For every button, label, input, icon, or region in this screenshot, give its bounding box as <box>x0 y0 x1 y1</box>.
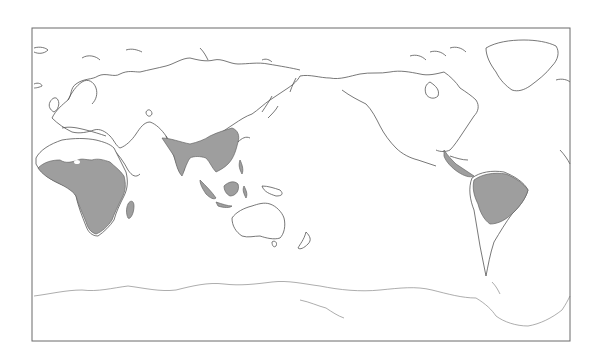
world-map <box>0 0 604 357</box>
sahara-gap <box>74 160 80 164</box>
tasmania <box>272 241 277 247</box>
